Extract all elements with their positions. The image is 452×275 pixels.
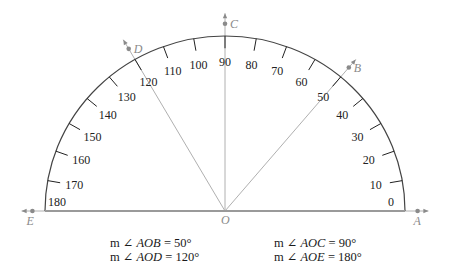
tick-mark — [87, 99, 97, 107]
scale-label: 90 — [219, 55, 231, 69]
scale-label: 120 — [140, 75, 158, 89]
scale-label: 10 — [370, 178, 382, 192]
scale-label: 60 — [296, 75, 308, 89]
tick-mark — [194, 39, 196, 51]
scale-label: 20 — [363, 153, 375, 167]
tick-mark — [333, 77, 341, 86]
tick-mark — [382, 151, 394, 155]
scale-label: 170 — [65, 178, 83, 192]
scale-label: 50 — [317, 90, 329, 104]
tick-mark — [254, 39, 256, 51]
point-a — [415, 209, 420, 214]
scale-label: 140 — [99, 108, 117, 122]
tick-mark — [163, 47, 167, 59]
tick-mark — [69, 124, 80, 130]
scale-label: 150 — [83, 130, 101, 144]
point-label-e: E — [25, 214, 34, 228]
caption-aod: m ∠ AOD = 120° — [110, 250, 199, 264]
caption-aoc: m ∠ AOC = 90° — [274, 236, 362, 250]
tick-mark — [390, 181, 402, 183]
point-label-c: C — [230, 17, 239, 31]
scale-label: 80 — [246, 58, 258, 72]
caption-left: m ∠ AOB = 50° m ∠ AOD = 120° — [110, 236, 199, 264]
tick-mark — [109, 77, 117, 86]
protractor-diagram: 0102030405060708090100110120130140150160… — [0, 0, 452, 275]
point-c — [223, 21, 228, 26]
tick-mark — [370, 124, 381, 130]
tick-mark — [135, 59, 141, 70]
point-label-d: D — [133, 42, 143, 56]
tick-mark — [48, 181, 60, 183]
point-b — [347, 65, 352, 70]
caption-aob: m ∠ AOB = 50° — [110, 236, 199, 250]
scale-label: 70 — [271, 64, 283, 78]
scale-label: 0 — [388, 195, 394, 209]
scale-label: 130 — [118, 90, 136, 104]
scale-label: 40 — [336, 108, 348, 122]
tick-mark — [282, 47, 286, 59]
tick-mark — [353, 99, 363, 107]
caption-right: m ∠ AOC = 90° m ∠ AOE = 180° — [274, 236, 362, 264]
tick-mark — [56, 151, 68, 155]
arrow-icon — [223, 13, 227, 18]
scale-label: 180 — [48, 195, 66, 209]
caption-aoe: m ∠ AOE = 180° — [274, 250, 362, 264]
arrow-icon — [423, 209, 428, 213]
point-d — [126, 47, 131, 52]
point-label-b: B — [354, 61, 362, 75]
scale-label: 30 — [352, 130, 364, 144]
scale-label: 110 — [164, 64, 182, 78]
point-e — [30, 209, 35, 214]
scale-label: 100 — [189, 58, 207, 72]
center-point-label: O — [221, 213, 230, 227]
tick-mark — [309, 59, 315, 70]
scale-label: 160 — [72, 153, 90, 167]
point-label-a: A — [413, 214, 422, 228]
arrow-icon — [22, 209, 27, 213]
